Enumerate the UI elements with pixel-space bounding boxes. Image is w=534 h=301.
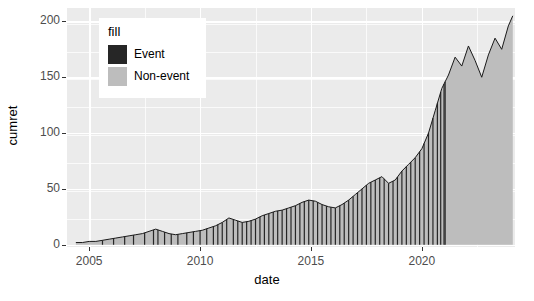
event-marker-bar: [217, 225, 218, 245]
event-marker-bar: [335, 208, 336, 245]
event-marker-bar: [250, 221, 251, 245]
event-marker-bar: [353, 196, 354, 244]
event-marker-bar: [445, 82, 446, 245]
event-marker-bar: [361, 189, 362, 245]
event-marker-bar: [410, 162, 411, 245]
x-axis-title: date: [0, 272, 534, 287]
legend-entries: EventNon-event: [108, 43, 198, 87]
event-marker-bar: [379, 178, 380, 245]
event-marker-bar: [133, 235, 134, 245]
event-marker-bar: [423, 144, 424, 245]
event-marker-bar: [392, 181, 393, 245]
event-marker-bar: [242, 222, 243, 244]
event-marker-bar: [206, 229, 207, 245]
event-marker-bar: [344, 203, 345, 245]
y-tick-mark: [62, 189, 66, 190]
event-marker-bar: [286, 209, 287, 245]
event-marker-bar: [308, 200, 309, 245]
legend-entry-label: Non-event: [134, 69, 189, 83]
legend-key-swatch: [108, 67, 127, 86]
event-marker-bar: [124, 237, 125, 245]
x-tick-label: 2015: [281, 254, 341, 268]
event-marker-bar: [255, 219, 256, 245]
event-marker-bar: [401, 171, 402, 245]
event-marker-bar: [357, 193, 358, 245]
event-marker-bar: [299, 203, 300, 244]
x-tick-label: 2020: [392, 254, 452, 268]
y-tick-mark: [62, 133, 66, 134]
event-marker-bar: [193, 232, 194, 245]
event-marker-bar: [330, 207, 331, 245]
event-marker-bar: [419, 152, 420, 245]
event-marker-bar: [370, 182, 371, 245]
legend-key-swatch: [108, 45, 127, 64]
event-marker-bar: [113, 238, 114, 244]
event-marker-bar: [339, 206, 340, 245]
y-tick-label: 150: [18, 69, 60, 83]
event-marker-bar: [384, 179, 385, 245]
event-marker-bar: [304, 202, 305, 245]
event-marker-bar: [290, 207, 291, 245]
event-marker-bar: [432, 118, 433, 245]
event-marker-bar: [295, 206, 296, 245]
event-marker-bar: [164, 232, 165, 245]
event-marker-bar: [144, 233, 145, 245]
event-marker-bar: [177, 234, 178, 244]
event-marker-bar: [440, 92, 441, 245]
event-marker-bar: [277, 211, 278, 245]
event-marker-bar: [437, 103, 438, 244]
y-tick-mark: [62, 77, 66, 78]
x-tick-mark: [200, 247, 201, 251]
y-tick-label: 50: [18, 181, 60, 195]
x-tick-mark: [422, 247, 423, 251]
event-marker-bar: [282, 210, 283, 245]
event-marker-bar: [102, 240, 103, 244]
event-marker-bar: [157, 230, 158, 245]
x-tick-label: 2005: [59, 254, 119, 268]
event-marker-bar: [415, 158, 416, 245]
y-tick-label: 100: [18, 125, 60, 139]
event-marker-bar: [199, 231, 200, 245]
y-tick-mark: [62, 21, 66, 22]
x-tick-mark: [311, 247, 312, 251]
event-marker-bar: [171, 234, 172, 245]
x-tick-label: 2010: [170, 254, 230, 268]
event-marker-bar: [428, 133, 429, 245]
event-marker-bar: [259, 217, 260, 245]
event-marker-bar: [443, 84, 444, 245]
event-marker-bar: [233, 219, 234, 244]
event-marker-bar: [375, 180, 376, 245]
event-marker-bar: [186, 233, 187, 245]
legend-entry: Event: [108, 43, 198, 65]
event-marker-bar: [348, 200, 349, 245]
event-marker-bar: [153, 230, 154, 245]
event-marker-bar: [366, 185, 367, 245]
x-tick-mark: [89, 247, 90, 251]
event-marker-bar: [268, 214, 269, 245]
event-marker-bar: [237, 221, 238, 245]
event-marker-bar: [388, 183, 389, 244]
event-marker-bar: [397, 177, 398, 245]
event-marker-bar: [317, 202, 318, 244]
event-marker-bar: [273, 212, 274, 245]
legend: fill EventNon-event: [99, 18, 206, 98]
event-marker-bar: [246, 222, 247, 245]
event-marker-bar: [321, 205, 322, 245]
event-marker-bar: [264, 215, 265, 245]
event-marker-bar: [313, 201, 314, 245]
legend-title: fill: [108, 24, 198, 39]
y-tick-label: 200: [18, 13, 60, 27]
event-marker-bar: [222, 222, 223, 244]
y-tick-mark: [62, 245, 66, 246]
event-marker-bar: [326, 206, 327, 245]
event-marker-bar: [213, 227, 214, 245]
legend-entry-label: Event: [134, 47, 165, 61]
chart-container: cumret date 050100150200 200520102015202…: [0, 0, 534, 301]
y-tick-label: 0: [18, 237, 60, 251]
event-marker-bar: [406, 167, 407, 245]
event-marker-bar: [226, 219, 227, 244]
legend-entry: Non-event: [108, 65, 198, 87]
